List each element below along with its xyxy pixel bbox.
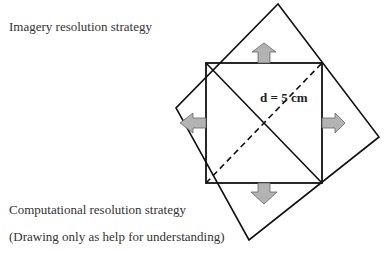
arrow-up-icon — [252, 43, 276, 63]
resolution-diagram: d = 5 cm — [0, 0, 385, 253]
arrow-right-icon — [322, 113, 345, 133]
arrow-left-icon — [180, 113, 206, 133]
diagonal-length-label: d = 5 cm — [260, 90, 308, 105]
arrow-down-icon — [251, 183, 277, 204]
